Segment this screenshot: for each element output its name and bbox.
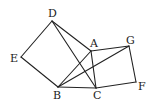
geometry-diagram: A B C D E F G [0,0,148,103]
segment-EB [21,57,58,87]
segment-FC [96,82,136,88]
label-A: A [89,37,99,50]
segment-DA [52,21,91,51]
segment-BC [58,87,96,88]
segments [21,21,136,88]
segment-GF [129,46,136,82]
label-D: D [48,7,57,20]
label-C: C [93,89,101,102]
label-G: G [126,34,135,47]
label-E: E [10,52,18,65]
segment-DE [21,21,52,57]
label-F: F [138,80,146,93]
label-B: B [53,89,61,102]
segment-AB [58,51,91,87]
segment-BG [58,46,129,87]
